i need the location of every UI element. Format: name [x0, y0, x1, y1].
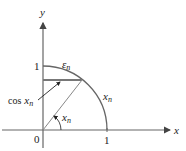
angle-arc — [54, 116, 61, 130]
cos-pointer-arrow — [38, 82, 60, 100]
x-tick-label: 1 — [104, 134, 110, 146]
unit-arc — [43, 66, 107, 130]
x-axis-label: x — [173, 124, 179, 136]
y-axis-label: y — [39, 6, 45, 18]
y-tick-label: 1 — [34, 60, 40, 72]
cos-label: cosxn — [8, 94, 33, 108]
origin-label: 0 — [34, 133, 40, 145]
epsilon-label: εn — [62, 58, 70, 72]
angle-label: xn — [61, 111, 71, 125]
unit-circle-diagram: y x 0 1 1 εn xn cosxn xn — [0, 0, 186, 151]
arc-length-label: xn — [102, 90, 112, 104]
